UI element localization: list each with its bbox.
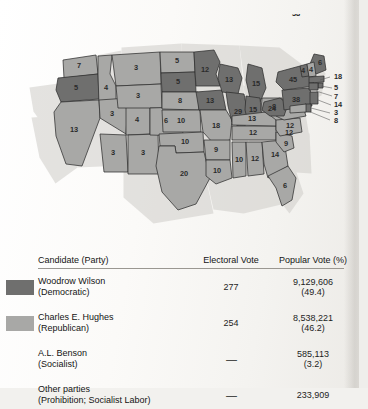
state-CT <box>309 83 318 90</box>
svg-text:14: 14 <box>271 150 280 159</box>
svg-text:3: 3 <box>110 109 114 118</box>
popular-vote-count: 8,538,221 <box>274 313 352 323</box>
popular-vote-cell: 8,538,221(46.2) <box>274 313 352 334</box>
header-popular-vote: Popular Vote (%) <box>274 255 352 265</box>
candidate-name: Charles E. Hughes <box>38 312 188 323</box>
svg-text:10: 10 <box>181 137 189 146</box>
svg-text:13: 13 <box>70 125 78 134</box>
candidate-cell: Woodrow Wilson(Democratic) <box>38 276 188 297</box>
svg-text:10: 10 <box>213 166 221 175</box>
candidate-party: (Republican) <box>38 323 188 334</box>
popular-vote-cell: 585,113(3.2) <box>274 349 352 370</box>
electoral-vote-cell: 254 <box>188 318 274 328</box>
svg-text:5: 5 <box>176 77 180 86</box>
svg-text:13: 13 <box>206 96 214 105</box>
svg-text:3: 3 <box>111 148 115 157</box>
svg-text:9: 9 <box>284 139 288 148</box>
svg-text:20: 20 <box>180 169 188 178</box>
state-NJ <box>310 92 318 104</box>
svg-text:6: 6 <box>318 58 322 67</box>
table-header-row: Candidate (Party) Electoral Vote Popular… <box>0 255 352 268</box>
table-row: Woodrow Wilson(Democratic)2779,129,606(4… <box>0 269 352 305</box>
popular-vote-percent: (46.2) <box>274 323 352 333</box>
us-map-svg: 7 5 4 13 3 4 3 3 3 3 6 5 5 8 10 10 20 12… <box>0 14 352 250</box>
electoral-vote-cell: — <box>188 353 274 365</box>
svg-text:18: 18 <box>334 72 342 81</box>
svg-text:10: 10 <box>177 116 185 125</box>
header-electoral-vote: Electoral Vote <box>188 255 274 265</box>
legend-swatch <box>6 280 34 295</box>
svg-text:45: 45 <box>289 75 297 84</box>
svg-text:5: 5 <box>334 83 338 92</box>
popular-vote-count: 585,113 <box>274 349 352 359</box>
table-row: A.L. Benson(Socialist)—585,113(3.2) <box>0 341 352 377</box>
popular-vote-percent: (3.2) <box>274 359 352 369</box>
svg-text:3: 3 <box>136 91 140 100</box>
svg-text:6: 6 <box>283 181 287 190</box>
svg-text:12: 12 <box>249 128 257 137</box>
svg-text:18: 18 <box>212 121 220 130</box>
candidate-name: A.L. Benson <box>38 348 188 359</box>
candidate-name: Other parties <box>38 384 188 395</box>
electoral-map: 7 5 4 13 3 4 3 3 3 3 6 5 5 8 10 10 20 12… <box>0 14 352 250</box>
popular-vote-cell: 9,129,606(49.4) <box>274 277 352 298</box>
candidate-party: (Socialist) <box>38 359 188 370</box>
popular-vote-count: 233,909 <box>274 390 352 400</box>
candidate-party: (Democratic) <box>38 287 188 298</box>
svg-text:7: 7 <box>77 61 81 70</box>
svg-text:12: 12 <box>201 65 209 74</box>
table-row: Charles E. Hughes(Republican)2548,538,22… <box>0 305 352 341</box>
candidate-cell: Other parties(Prohibition; Socialist Lab… <box>38 384 188 405</box>
svg-text:9: 9 <box>214 145 218 154</box>
svg-text:5: 5 <box>74 83 78 92</box>
svg-text:8: 8 <box>334 116 338 125</box>
svg-text:15: 15 <box>252 79 260 88</box>
svg-text:3: 3 <box>134 63 138 72</box>
table-row: Other parties(Prohibition; Socialist Lab… <box>0 377 352 409</box>
svg-text:38: 38 <box>292 14 300 18</box>
svg-text:12: 12 <box>286 121 294 130</box>
candidate-party: (Prohibition; Socialist Labor) <box>38 395 188 406</box>
svg-text:13: 13 <box>225 75 233 84</box>
svg-text:5: 5 <box>175 56 179 65</box>
header-candidate: Candidate (Party) <box>38 255 188 265</box>
svg-text:15: 15 <box>249 105 257 114</box>
svg-text:8: 8 <box>272 102 276 111</box>
legend-swatch-cell <box>0 316 38 331</box>
electoral-vote-cell: 277 <box>188 282 274 292</box>
page-margin <box>359 0 368 388</box>
candidate-cell: Charles E. Hughes(Republican) <box>38 312 188 333</box>
svg-text:10: 10 <box>235 155 243 164</box>
svg-text:3: 3 <box>141 148 145 157</box>
results-table: Candidate (Party) Electoral Vote Popular… <box>0 255 352 409</box>
popular-vote-count: 9,129,606 <box>274 277 352 287</box>
state-RI <box>318 83 323 88</box>
svg-text:8: 8 <box>178 96 182 105</box>
svg-text:38: 38 <box>292 95 300 104</box>
svg-text:12: 12 <box>251 154 259 163</box>
svg-text:13: 13 <box>248 114 256 123</box>
candidate-name: Woodrow Wilson <box>38 276 188 287</box>
svg-text:29: 29 <box>234 107 242 116</box>
svg-text:6: 6 <box>164 116 168 125</box>
legend-swatch-cell <box>0 280 38 295</box>
popular-vote-percent: (49.4) <box>274 287 352 297</box>
electoral-vote-cell: — <box>188 389 274 401</box>
popular-vote-cell: 233,909 <box>274 390 352 400</box>
candidate-cell: A.L. Benson(Socialist) <box>38 348 188 369</box>
state-MD <box>290 104 306 113</box>
legend-swatch <box>6 316 34 331</box>
table-body: Woodrow Wilson(Democratic)2779,129,606(4… <box>0 269 352 409</box>
